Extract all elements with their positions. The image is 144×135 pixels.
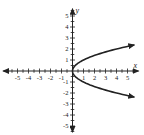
x-axis-label: x	[133, 61, 138, 70]
x-tick-label: 1	[82, 74, 85, 81]
y-tick-label: 5	[65, 12, 68, 19]
x-tick-label: 4	[115, 74, 119, 81]
y-tick-label: 1	[65, 56, 68, 63]
y-tick-label: -3	[63, 100, 68, 107]
x-tick-label: -2	[48, 74, 53, 81]
y-tick-label: 3	[65, 34, 68, 41]
x-tick-label: -3	[37, 74, 42, 81]
y-tick-label: -2	[63, 89, 68, 96]
y-tick-label: 4	[65, 23, 69, 30]
y-tick-label: -5	[63, 122, 68, 129]
y-tick-label: -4	[63, 111, 69, 118]
graph-chart: -5-4-3-2-112345-5-4-3-2-112345 x y	[0, 0, 144, 135]
x-tick-label: -4	[26, 74, 32, 81]
x-tick-label: 5	[126, 74, 129, 81]
x-tick-label: 2	[93, 74, 96, 81]
x-tick-label: 3	[104, 74, 107, 81]
y-tick-label: -1	[63, 78, 68, 85]
x-tick-label: -5	[15, 74, 20, 81]
y-tick-label: 2	[65, 45, 68, 52]
y-axis-label: y	[75, 6, 80, 15]
